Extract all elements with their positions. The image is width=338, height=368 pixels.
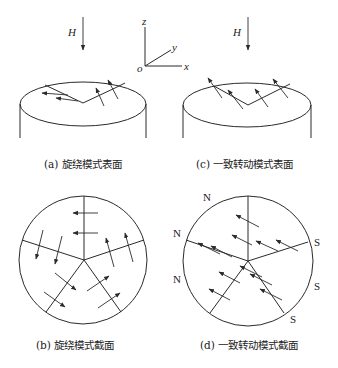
panel-d-coherent-section: N N N S S S: [173, 191, 320, 326]
field-label-c: H: [232, 26, 242, 38]
north-pole-label-1: N: [203, 191, 211, 203]
caption-b: (b) 旋绕模式截面: [36, 339, 114, 351]
panel-c-coherent-surface: H: [183, 17, 311, 138]
axis-z-label: z: [141, 15, 147, 27]
cylinder-c: [183, 83, 311, 138]
field-arrow-c: H: [232, 17, 248, 50]
pole-labels-d: N N N S S S: [173, 191, 320, 325]
south-pole-label-3: S: [290, 313, 296, 325]
magnetic-modes-diagram: H z y x o H: [0, 0, 338, 368]
north-pole-label-2: N: [173, 227, 181, 239]
caption-a: (a) 旋绕模式表面: [44, 158, 122, 170]
caption-d: (d) 一致转动模式截面: [200, 339, 298, 351]
coordinate-axes: z y x o: [137, 15, 189, 74]
south-pole-label-1: S: [314, 236, 320, 248]
caption-c: (c) 一致转动模式表面: [196, 158, 293, 170]
field-label-a: H: [67, 26, 77, 38]
axis-x-label: x: [183, 60, 189, 72]
domain-walls-c: [214, 84, 290, 105]
north-pole-label-3: N: [173, 273, 181, 285]
cylinder-a: [20, 82, 146, 138]
domain-walls-a: [45, 83, 125, 103]
axis-y-label: y: [171, 41, 177, 53]
panel-b-vortex-section: [19, 196, 147, 324]
axis-origin-label: o: [137, 62, 143, 74]
field-arrow-a: H: [67, 17, 83, 50]
south-pole-label-2: S: [314, 280, 320, 292]
panel-a-vortex-surface: H: [20, 17, 146, 138]
